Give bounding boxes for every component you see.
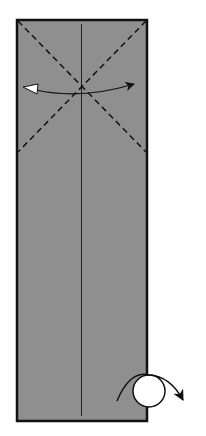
turn-over-circle-icon bbox=[133, 375, 165, 407]
origami-diagram bbox=[0, 0, 206, 436]
